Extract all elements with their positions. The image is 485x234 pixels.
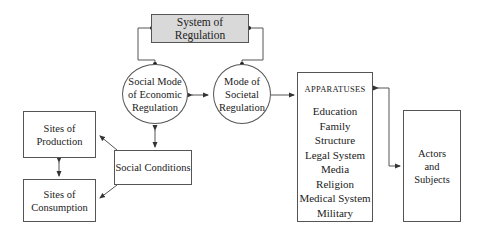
node-label-line: Social Mode: [128, 75, 181, 88]
system-of-regulation-box: System of Regulation: [151, 14, 249, 43]
social-conditions-box: Social Conditions: [114, 150, 192, 185]
social-mode-economic-regulation-node: Social Mode of Economic Regulation: [122, 64, 188, 124]
sites-of-production-box: Sites of Production: [23, 111, 96, 158]
node-label-line: of Economic: [128, 88, 182, 101]
node-label-line: Regulation: [219, 101, 265, 114]
actors-and-subjects-box: Actors and Subjects: [403, 110, 461, 222]
node-label-line: Actors: [418, 147, 446, 160]
node-label-line: Sites of: [44, 188, 76, 201]
apparatus-item: Religion: [316, 177, 354, 192]
apparatuses-box: APPARATUSES Education Family Structure L…: [297, 72, 373, 222]
node-label-line: Regulation: [132, 101, 178, 114]
apparatus-item: Military: [317, 206, 353, 221]
system-of-regulation-label: System of Regulation: [152, 16, 248, 42]
node-label: Social Conditions: [116, 161, 191, 174]
node-label-line: Sites of: [44, 122, 76, 135]
apparatus-item: Education: [313, 104, 358, 119]
node-label-line: Subjects: [414, 173, 450, 186]
apparatuses-title: APPARATUSES: [304, 83, 365, 96]
node-label-line: Production: [36, 135, 82, 148]
apparatus-item: Legal System: [305, 148, 365, 163]
apparatus-item: Media: [321, 162, 349, 177]
apparatus-item: Family Structure: [298, 119, 372, 148]
node-label-line: Consumption: [31, 201, 88, 214]
node-label-line: and: [424, 160, 439, 173]
node-label-line: Societal: [225, 88, 259, 101]
mode-of-societal-regulation-node: Mode of Societal Regulation: [213, 64, 271, 124]
apparatus-item: Medical System: [299, 191, 370, 206]
node-label-line: Mode of: [224, 75, 260, 88]
sites-of-consumption-box: Sites of Consumption: [23, 179, 96, 222]
